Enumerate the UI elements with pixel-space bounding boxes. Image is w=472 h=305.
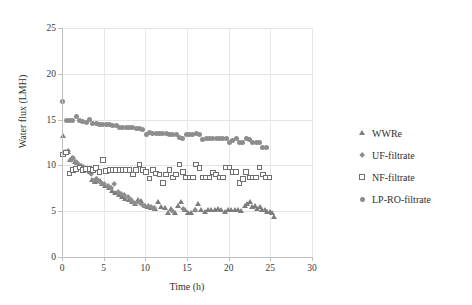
data-point (170, 132, 175, 137)
y-tick-15 (58, 120, 62, 121)
open-square-icon (356, 171, 368, 183)
data-point (204, 136, 209, 141)
data-point (214, 136, 219, 141)
data-point (257, 140, 262, 145)
y-tick-0 (58, 257, 62, 258)
y-axis-line (62, 28, 63, 257)
data-point (97, 122, 102, 127)
data-point (64, 118, 69, 123)
chart-legend: WWReUF-filtrateNF-filtrateLP-RO-filtrate (356, 122, 472, 210)
data-point (134, 126, 139, 131)
data-point (107, 122, 112, 127)
data-point (117, 125, 122, 130)
data-point (144, 132, 149, 137)
data-point (227, 140, 232, 145)
x-tick-label-20: 20 (214, 263, 244, 273)
x-tick-label-5: 5 (89, 263, 119, 273)
y-tick-label-5: 5 (10, 206, 56, 216)
legend-item-nf-filtrate[interactable]: NF-filtrate (356, 166, 472, 188)
data-point (130, 125, 135, 130)
data-point (84, 120, 89, 125)
x-tick-5 (104, 257, 105, 261)
plot-area (62, 28, 312, 257)
legend-item-lp-ro-filtrate[interactable]: LP-RO-filtrate (356, 188, 472, 210)
circle-icon (356, 193, 368, 205)
y-axis-title: Water flux (LMH) (17, 52, 28, 172)
data-point (184, 132, 189, 137)
data-point (80, 119, 85, 124)
x-tick-label-25: 25 (255, 263, 285, 273)
data-point (160, 131, 165, 136)
data-point (67, 118, 72, 123)
data-point (210, 136, 215, 141)
y-tick-label-25: 25 (10, 23, 56, 33)
data-point (150, 131, 155, 136)
data-point (240, 140, 245, 145)
x-axis-title: Time (h) (62, 281, 312, 292)
data-point (174, 132, 179, 137)
data-point (140, 127, 145, 132)
x-tick-label-15: 15 (172, 263, 202, 273)
data-point (137, 126, 142, 131)
data-point (120, 125, 125, 130)
data-point (247, 137, 252, 142)
data-point (224, 136, 229, 141)
data-point (254, 140, 259, 145)
series-lp-ro-filtrate (62, 28, 312, 257)
data-point (230, 138, 235, 143)
data-point (100, 122, 105, 127)
y-tick-25 (58, 28, 62, 29)
x-tick-20 (229, 257, 230, 261)
data-point (237, 140, 242, 145)
data-point (154, 131, 159, 136)
x-tick-15 (187, 257, 188, 261)
data-point (127, 125, 132, 130)
legend-label: LP-RO-filtrate (372, 194, 431, 205)
data-point (177, 135, 182, 140)
data-point (220, 136, 225, 141)
data-point (250, 140, 255, 145)
x-tick-0 (62, 257, 63, 261)
triangle-icon (356, 127, 368, 139)
x-tick-label-30: 30 (297, 263, 327, 273)
data-point (77, 118, 82, 123)
data-point (167, 132, 172, 137)
data-point (197, 132, 202, 137)
data-point (207, 136, 212, 141)
data-point (164, 131, 169, 136)
gridline-x-30 (312, 28, 313, 257)
legend-label: NF-filtrate (372, 172, 415, 183)
data-point (70, 118, 75, 123)
data-point (234, 136, 239, 141)
data-point (244, 136, 249, 141)
data-point (94, 121, 99, 126)
y-tick-20 (58, 74, 62, 75)
x-tick-10 (145, 257, 146, 261)
legend-label: WWRe (372, 128, 402, 139)
y-tick-5 (58, 211, 62, 212)
data-point (194, 131, 199, 136)
y-tick-label-0: 0 (10, 252, 56, 262)
data-point (90, 121, 95, 126)
diamond-icon (356, 149, 368, 161)
data-point (260, 145, 265, 150)
data-point (180, 136, 185, 141)
data-point (124, 125, 129, 130)
legend-item-wwre[interactable]: WWRe (356, 122, 472, 144)
data-point (110, 123, 115, 128)
legend-label: UF-filtrate (372, 150, 415, 161)
data-point (114, 123, 119, 128)
data-point (264, 145, 269, 150)
data-point (157, 131, 162, 136)
legend-item-uf-filtrate[interactable]: UF-filtrate (356, 144, 472, 166)
x-tick-label-10: 10 (130, 263, 160, 273)
data-point (104, 122, 109, 127)
x-tick-30 (312, 257, 313, 261)
data-point (200, 137, 205, 142)
data-point (147, 130, 152, 135)
data-point (190, 132, 195, 137)
data-point (74, 114, 79, 119)
data-point (87, 117, 92, 122)
chart-figure: 0510152025 051015202530 Time (h) Water f… (0, 0, 472, 305)
x-tick-label-0: 0 (47, 263, 77, 273)
